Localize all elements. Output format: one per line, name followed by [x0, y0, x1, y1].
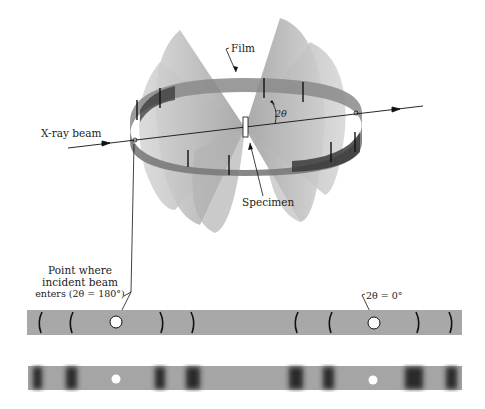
xray-beam-label: X-ray beam [41, 127, 101, 139]
specimen [243, 117, 248, 137]
entry-point-line1: Point where [34, 264, 126, 276]
two-theta-label: 2θ [275, 108, 287, 120]
entry-point-line3: enters (2θ = 180°) [34, 288, 126, 300]
exit-point-label: 2θ = 0° [366, 290, 403, 302]
entry-point-line2: incident beam [34, 276, 126, 288]
exposed-film-strip [28, 366, 462, 390]
entry-point-label: Point where incident beam enters (2θ = 1… [34, 264, 126, 300]
schematic-film-strip [27, 310, 462, 335]
specimen-label: Specimen [242, 196, 294, 208]
film-label: Film [231, 42, 255, 54]
